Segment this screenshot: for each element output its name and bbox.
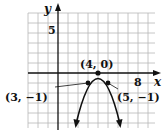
parabola-graph: y 5 x 8 (4, 0) (3, −1) (5, −1)	[0, 0, 164, 135]
x-axis-label: x	[153, 75, 162, 89]
y-tick-5: 5	[48, 24, 56, 37]
vertex-label: (4, 0)	[80, 58, 113, 71]
leader-left	[55, 83, 88, 87]
y-axis-arrow-icon	[55, 3, 61, 11]
y-axis-label: y	[43, 2, 52, 16]
right-arrow-icon	[116, 119, 123, 128]
left-arrow-icon	[74, 119, 81, 128]
x-tick-8: 8	[134, 76, 142, 89]
point-left	[86, 81, 91, 86]
point-vertex	[95, 70, 100, 75]
right-point-label: (5, −1)	[117, 91, 160, 104]
point-right	[106, 81, 111, 86]
left-point-label: (3, −1)	[5, 91, 48, 104]
